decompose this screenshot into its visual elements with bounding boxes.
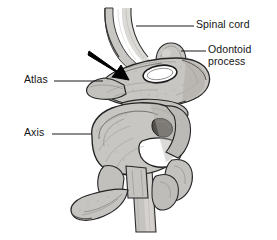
label-spinal-cord: Spinal cord xyxy=(196,19,250,31)
label-axis: Axis xyxy=(24,127,44,139)
spinous-process xyxy=(71,189,128,220)
anatomy-illustration xyxy=(0,0,277,240)
anatomy-figure: Spinal cord Odontoid process Atlas Axis xyxy=(0,0,277,240)
label-odontoid-process-line1: Odontoid xyxy=(208,44,251,56)
axis-lateral-inferior-right xyxy=(152,174,178,210)
label-atlas: Atlas xyxy=(24,74,48,86)
label-odontoid-process-line2: process xyxy=(208,56,245,68)
